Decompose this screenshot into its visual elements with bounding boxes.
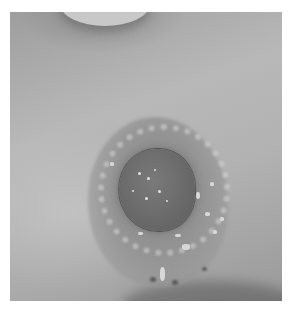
crust <box>205 212 210 216</box>
dark-spot <box>150 277 156 282</box>
speck <box>147 177 150 180</box>
speck <box>138 172 141 175</box>
speck <box>145 197 148 200</box>
crust <box>160 267 165 281</box>
speck <box>154 169 156 171</box>
speck <box>166 200 168 202</box>
speck <box>132 190 134 192</box>
central-lesion <box>119 149 195 231</box>
crust <box>210 182 214 186</box>
crust <box>220 217 224 221</box>
crust <box>110 162 114 166</box>
crust <box>138 232 143 235</box>
crust <box>196 192 200 199</box>
dark-spot <box>172 280 178 285</box>
crust <box>175 234 181 237</box>
clinical-photo <box>10 12 282 301</box>
crust <box>213 230 217 234</box>
dark-spot <box>202 267 207 271</box>
speck <box>158 190 161 193</box>
crust <box>182 244 190 250</box>
skin-fold <box>60 12 150 26</box>
